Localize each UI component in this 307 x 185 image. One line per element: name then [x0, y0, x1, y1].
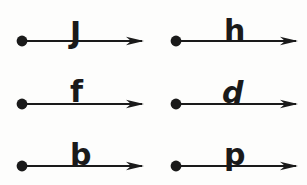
vector-label-letter: p — [224, 140, 245, 170]
vector-label-letter: h — [224, 16, 245, 46]
vector-label-letter: J — [70, 18, 81, 48]
vector-label-letter: d — [222, 78, 243, 108]
arrow-diagram-cell: p — [162, 137, 302, 185]
arrow-diagram-cell: J — [8, 12, 148, 70]
arrow-diagram-cell: d — [162, 75, 302, 133]
arrow-diagram-cell: f — [8, 75, 148, 133]
arrow-diagram-cell: h — [162, 12, 302, 70]
start-point-dot-icon — [17, 36, 28, 47]
arrow-diagram-cell: b — [8, 137, 148, 185]
start-point-dot-icon — [171, 36, 182, 47]
start-point-dot-icon — [17, 161, 28, 172]
vector-label-letter: f — [70, 77, 83, 107]
arrow-letter-figure: Jhfdbp — [0, 0, 307, 185]
start-point-dot-icon — [171, 99, 182, 110]
start-point-dot-icon — [171, 161, 182, 172]
start-point-dot-icon — [17, 99, 28, 110]
vector-label-letter: b — [70, 140, 91, 170]
